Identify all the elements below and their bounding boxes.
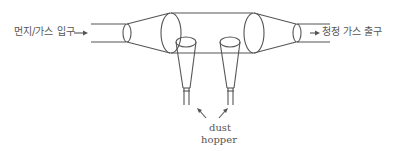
hopper-pointer-right bbox=[219, 108, 228, 118]
outlet-arrow bbox=[310, 31, 320, 36]
hopper-pointer-left bbox=[197, 108, 206, 118]
hopper-label-line2: hopper bbox=[201, 134, 237, 146]
outlet-label: 청정 가스 출구 bbox=[322, 27, 382, 37]
hopper-funnel-right bbox=[220, 37, 240, 105]
inlet-cone bbox=[127, 13, 181, 53]
dust-collector-diagram bbox=[0, 0, 408, 151]
hopper-label-line1: dust bbox=[205, 122, 237, 134]
hopper-funnel-left bbox=[176, 37, 196, 105]
hopper-label: dust hopper bbox=[205, 122, 237, 145]
inlet-arrow bbox=[74, 31, 88, 36]
inlet-pipe bbox=[91, 24, 131, 42]
inlet-label: 먼지/가스 입구 bbox=[14, 27, 75, 37]
